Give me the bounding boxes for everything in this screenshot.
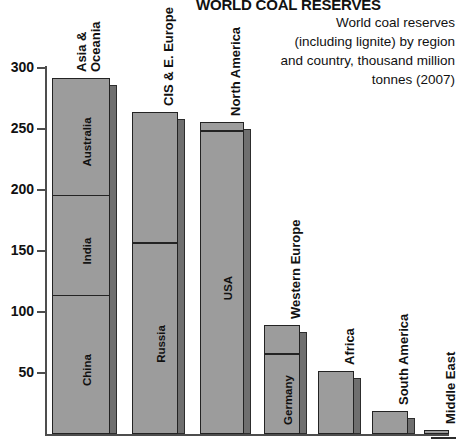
segment-label-russia: Russia bbox=[155, 325, 167, 363]
chart-title: WORLD COAL RESERVES bbox=[196, 0, 460, 13]
x-axis-baseline bbox=[45, 434, 449, 436]
category-label-western-europe: Western Europe bbox=[289, 220, 302, 319]
category-label-cis-e-europe: CIS & E. Europe bbox=[162, 7, 175, 106]
y-axis-label: 250 bbox=[0, 120, 34, 136]
y-tick-mark bbox=[37, 311, 45, 313]
y-axis-line bbox=[45, 66, 47, 436]
segment-divider bbox=[200, 130, 244, 132]
segment-divider bbox=[52, 195, 110, 197]
y-axis-label: 150 bbox=[0, 242, 34, 258]
category-label-south-america: South America bbox=[397, 314, 410, 405]
region-label-line: CIS & E. Europe bbox=[162, 7, 175, 106]
segment-label-germany: Germany bbox=[282, 375, 294, 425]
category-label-asia-oceania: Asia &Oceania bbox=[75, 21, 103, 72]
region-label-line: Asia & bbox=[75, 21, 89, 72]
y-axis-label: 50 bbox=[0, 364, 34, 380]
subtitle-line-1: World coal reserves bbox=[169, 13, 455, 32]
segment-label-india: India bbox=[81, 237, 93, 264]
subtitle-line-2: (including lignite) by region bbox=[169, 32, 455, 51]
y-tick-mark bbox=[37, 67, 45, 69]
subtitle-line-4: tonnes (2007) bbox=[169, 70, 455, 89]
segment-divider bbox=[132, 242, 178, 244]
segment-divider bbox=[52, 295, 110, 297]
region-label-line: North America bbox=[229, 27, 242, 116]
bar-cis-e-europe[interactable] bbox=[132, 112, 178, 434]
segment-label-usa: USA bbox=[222, 276, 234, 300]
y-tick-mark bbox=[37, 250, 45, 252]
y-tick-mark bbox=[37, 189, 45, 191]
subtitle-line-3: and country, thousand million bbox=[169, 51, 455, 70]
region-label-line: South America bbox=[397, 314, 410, 405]
region-label-line: Western Europe bbox=[289, 220, 302, 319]
bar-middle-east[interactable] bbox=[424, 430, 449, 434]
y-axis-label: 200 bbox=[0, 181, 34, 197]
y-axis-label: 100 bbox=[0, 303, 34, 319]
segment-label-china: China bbox=[81, 354, 93, 386]
category-label-africa: Africa bbox=[343, 328, 356, 365]
bar-south-america[interactable] bbox=[372, 411, 408, 434]
y-axis-label: 300 bbox=[0, 59, 34, 75]
region-label-line: Oceania bbox=[89, 21, 103, 72]
category-label-middle-east: Middle East bbox=[444, 352, 457, 424]
chart-subtitle: World coal reserves (including lignite) … bbox=[169, 13, 455, 89]
region-label-line: Middle East bbox=[444, 352, 457, 424]
segment-divider bbox=[264, 353, 300, 355]
region-label-line: Africa bbox=[343, 328, 356, 365]
category-label-north-america: North America bbox=[229, 27, 242, 116]
bar-africa[interactable] bbox=[318, 371, 354, 434]
y-tick-mark bbox=[37, 128, 45, 130]
segment-label-australia: Australia bbox=[81, 118, 93, 167]
y-tick-mark bbox=[37, 372, 45, 374]
